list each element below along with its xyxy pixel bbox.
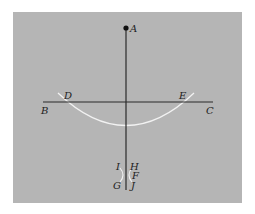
- label-c: C: [206, 105, 214, 116]
- label-j: J: [129, 180, 136, 191]
- label-g: G: [113, 180, 121, 191]
- label-d: D: [63, 90, 72, 101]
- label-e: E: [178, 90, 187, 101]
- label-a: A: [129, 23, 137, 34]
- label-b: B: [40, 105, 48, 116]
- point-a: [123, 25, 128, 30]
- geometry-diagram: A D E B C I H F G J: [0, 0, 255, 214]
